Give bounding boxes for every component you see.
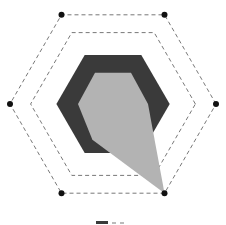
axis-vertex-marker	[162, 190, 168, 196]
legend	[96, 221, 124, 224]
radar-chart	[0, 0, 226, 225]
axis-vertex-marker	[59, 190, 65, 196]
axis-vertex-marker	[213, 101, 219, 107]
legend-marker	[112, 222, 116, 224]
legend-swatch-series-a	[96, 221, 108, 224]
axis-vertex-marker	[7, 101, 13, 107]
axis-vertex-marker	[162, 12, 168, 18]
legend-marker	[120, 222, 124, 224]
axis-vertex-marker	[59, 12, 65, 18]
